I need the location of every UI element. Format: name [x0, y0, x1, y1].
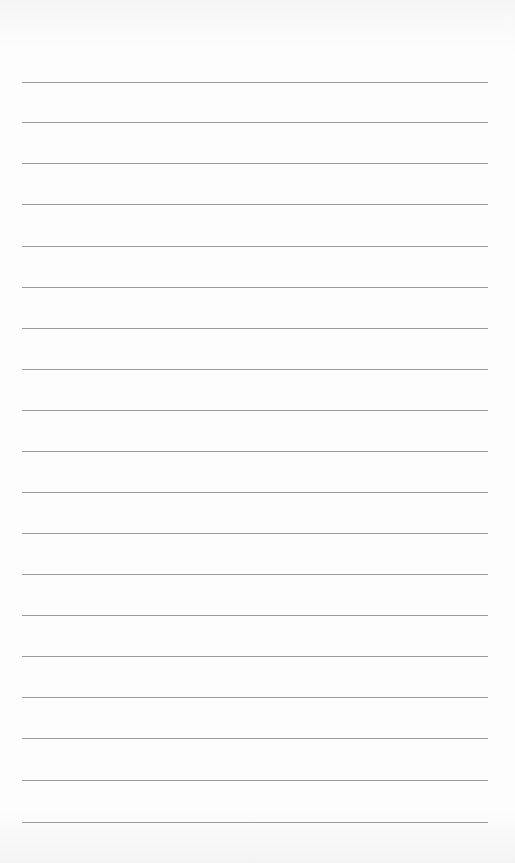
ruled-line	[22, 122, 488, 123]
lined-paper-page	[0, 0, 515, 863]
ruled-line	[22, 780, 488, 781]
ruled-line	[22, 204, 488, 205]
ruled-line	[22, 574, 488, 575]
ruled-line	[22, 328, 488, 329]
ruled-line	[22, 615, 488, 616]
ruled-line	[22, 369, 488, 370]
ruled-line	[22, 246, 488, 247]
ruled-line	[22, 451, 488, 452]
ruled-line	[22, 287, 488, 288]
ruled-line	[22, 697, 488, 698]
ruled-line	[22, 656, 488, 657]
ruled-line	[22, 410, 488, 411]
ruled-line	[22, 492, 488, 493]
ruled-line	[22, 738, 488, 739]
ruled-line	[22, 533, 488, 534]
ruled-line	[22, 822, 488, 823]
ruled-line	[22, 82, 488, 83]
ruled-line	[22, 163, 488, 164]
